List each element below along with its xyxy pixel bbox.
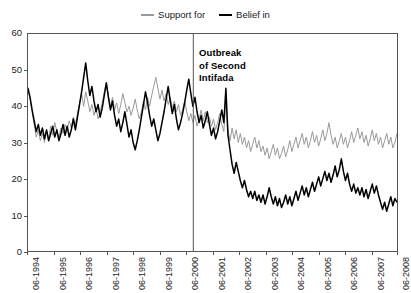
- line-swatch-black-icon: [219, 14, 232, 16]
- x-tick-label: 06-1996: [84, 257, 94, 290]
- legend-entry-support: Support for: [141, 9, 205, 20]
- series-line-support-for: [28, 77, 397, 158]
- legend-entry-belief: Belief in: [219, 9, 270, 20]
- x-tick-mark: [186, 252, 187, 255]
- x-tick-mark: [27, 252, 28, 255]
- x-axis: 06-199406-199506-199606-199706-199806-19…: [27, 252, 398, 293]
- x-tick-mark: [397, 252, 398, 255]
- x-tick-label: 06-2003: [270, 257, 280, 290]
- x-tick-mark: [54, 252, 55, 255]
- chart-container: Support for Belief in 0102030405060 Outb…: [0, 0, 411, 293]
- x-tick-label: 06-1995: [58, 257, 68, 290]
- x-tick-label: 06-2004: [296, 257, 306, 290]
- y-tick-label: 0: [17, 247, 22, 257]
- event-annotation-label: Outbreak of Second Intifada: [199, 47, 246, 85]
- x-tick-label: 06-2008: [401, 257, 411, 290]
- legend-label-support: Support for: [158, 9, 205, 20]
- x-tick-mark: [319, 252, 320, 255]
- x-tick-mark: [372, 252, 373, 255]
- y-tick-label: 40: [11, 101, 22, 111]
- legend-label-belief: Belief in: [236, 9, 270, 20]
- x-tick-label: 06-2002: [243, 257, 253, 290]
- x-tick-label: 06-2005: [323, 257, 333, 290]
- line-swatch-gray-icon: [141, 14, 154, 16]
- x-tick-mark: [292, 252, 293, 255]
- y-tick-label: 10: [11, 211, 22, 221]
- y-tick-label: 20: [11, 174, 22, 184]
- y-tick-label: 50: [11, 65, 22, 75]
- x-tick-label: 06-1998: [137, 257, 147, 290]
- x-tick-label: 06-2007: [376, 257, 386, 290]
- x-tick-label: 06-1997: [111, 257, 121, 290]
- x-tick-mark: [266, 252, 267, 255]
- x-tick-label: 06-1994: [31, 257, 41, 290]
- x-tick-label: 06-1999: [164, 257, 174, 290]
- x-tick-mark: [239, 252, 240, 255]
- y-tick-label: 30: [11, 138, 22, 148]
- x-tick-label: 06-2000: [190, 257, 200, 290]
- x-tick-mark: [107, 252, 108, 255]
- y-axis: 0102030405060: [0, 33, 27, 252]
- x-tick-mark: [80, 252, 81, 255]
- x-tick-mark: [345, 252, 346, 255]
- y-tick-label: 60: [11, 28, 22, 38]
- x-tick-mark: [160, 252, 161, 255]
- x-tick-mark: [213, 252, 214, 255]
- x-tick-label: 06-2006: [349, 257, 359, 290]
- x-tick-label: 06-2001: [217, 257, 227, 290]
- chart-legend: Support for Belief in: [0, 6, 411, 23]
- x-tick-mark: [133, 252, 134, 255]
